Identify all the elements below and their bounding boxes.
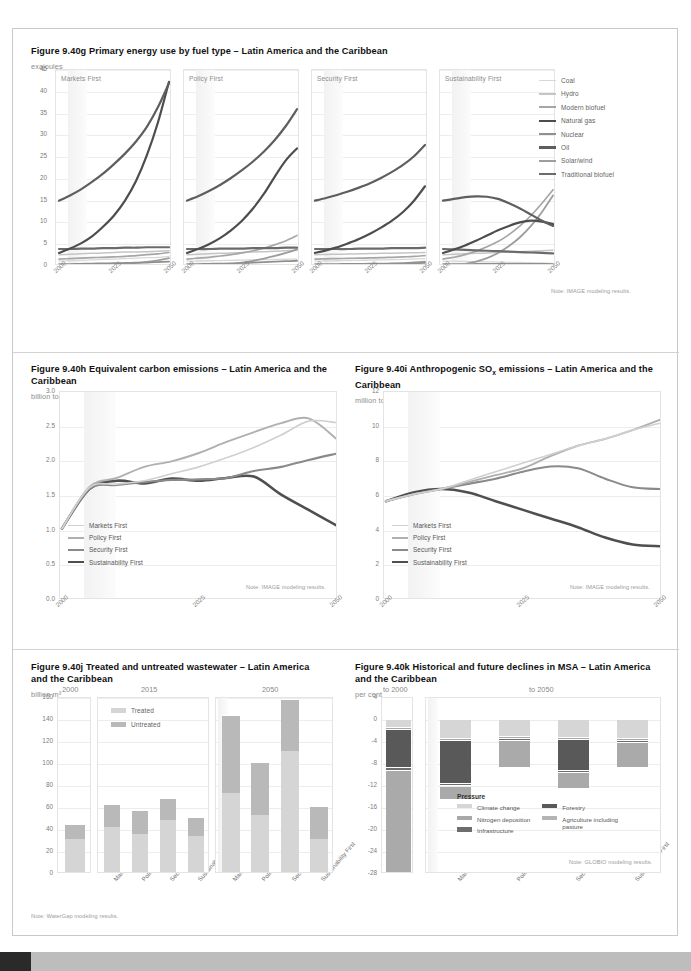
chart-note: Note: IMAGE modeling results. bbox=[570, 584, 650, 590]
pressure-legend-grid: Climate changeNitrogen depositionInfrast… bbox=[457, 804, 624, 839]
legend-swatch bbox=[111, 708, 126, 712]
legend-item-sustainability_first: Sustainability First bbox=[68, 559, 143, 566]
y-tick-label: 0.0 bbox=[33, 595, 55, 602]
figure-9-40j-title-line1: Figure 9.40j Treated and untreated waste… bbox=[31, 661, 343, 673]
segment-untreated bbox=[310, 806, 328, 839]
bar-security_first bbox=[558, 698, 589, 872]
legend-swatch bbox=[539, 80, 556, 81]
plot-area: Markets FirstPolicy FirstSecurity FirstS… bbox=[59, 391, 337, 599]
legend-swatch bbox=[392, 525, 408, 527]
gridline bbox=[98, 764, 208, 765]
y-tick-label: -12 bbox=[355, 781, 377, 788]
gridline bbox=[216, 698, 332, 699]
pressure-legend-col-right: ForestryAgriculture including pasture bbox=[542, 804, 624, 839]
legend-label: Security First bbox=[413, 546, 452, 553]
y-tick-label: 3.0 bbox=[33, 387, 55, 394]
bar-group-0 bbox=[381, 697, 413, 873]
figure-9-40k: Figure 9.40k Historical and future decli… bbox=[355, 661, 667, 927]
y-tick-label: 25 bbox=[29, 152, 47, 159]
panel-lines bbox=[440, 70, 555, 265]
bar-group-0 bbox=[57, 697, 91, 873]
y-tick-label: -20 bbox=[355, 825, 377, 832]
gridline bbox=[98, 742, 208, 743]
gridline bbox=[98, 698, 208, 699]
figure-9-40i-title: Figure 9.40i Anthropogenic SOx emissions… bbox=[355, 363, 667, 391]
panel-sustainability_first: Sustainability First bbox=[439, 69, 555, 265]
treated-legend: TreatedUntreated bbox=[111, 707, 160, 735]
legend-swatch bbox=[68, 525, 84, 527]
gridline bbox=[58, 786, 90, 787]
figure-9-40g: Figure 9.40g Primary energy use by fuel … bbox=[31, 45, 661, 355]
legend-swatch bbox=[539, 133, 556, 135]
y-tick-label: 15 bbox=[29, 196, 47, 203]
legend-label: Treated bbox=[131, 707, 154, 714]
y-tick-label: 0 bbox=[31, 869, 53, 876]
figure-9-40j: Figure 9.40j Treated and untreated waste… bbox=[31, 661, 343, 927]
legend-label: Infrastructure bbox=[477, 827, 513, 834]
segment-untreated bbox=[160, 798, 177, 820]
bar-sustainability_first bbox=[188, 817, 205, 872]
legend-swatch bbox=[457, 827, 472, 831]
legend-swatch bbox=[539, 120, 556, 122]
divider-1 bbox=[13, 352, 679, 353]
scenario-legend: Markets FirstPolicy FirstSecurity FirstS… bbox=[392, 522, 467, 571]
bar-policy_first bbox=[251, 762, 269, 872]
legend-item-markets_first: Markets First bbox=[392, 522, 467, 529]
legend-item-infrastructure: Infrastructure bbox=[457, 827, 530, 834]
legend-label: Traditional biofuel bbox=[561, 171, 614, 178]
legend-item-solar_wind: Solar/wind bbox=[539, 157, 614, 164]
y-tick-label: 0 bbox=[357, 595, 379, 602]
figure-9-40i: Figure 9.40i Anthropogenic SOx emissions… bbox=[355, 363, 667, 641]
legend-item-agriculture_including_pasture: Agriculture including pasture bbox=[542, 816, 624, 831]
y-tick-label: 120 bbox=[31, 737, 53, 744]
legend-label: Policy First bbox=[89, 534, 121, 541]
y-tick-label: -24 bbox=[355, 847, 377, 854]
chart-note: Note: GLOBIO modeling results. bbox=[569, 859, 652, 865]
y-tick-label: 0 bbox=[355, 715, 377, 722]
legend-label: Coal bbox=[561, 77, 575, 84]
panel-lines bbox=[56, 70, 171, 265]
segment-untreated bbox=[132, 810, 149, 833]
legend-label: Sustainability First bbox=[89, 559, 143, 566]
legend-swatch bbox=[539, 160, 556, 162]
figure-9-40g-legend: CoalHydroModern biofuelNatural gasNuclea… bbox=[539, 77, 614, 184]
legend-swatch bbox=[539, 146, 556, 148]
panel-lines bbox=[184, 70, 299, 265]
segment-climate_change bbox=[499, 720, 530, 737]
y-tick-label: 80 bbox=[31, 781, 53, 788]
legend-item-policy_first: Policy First bbox=[392, 534, 467, 541]
y-tick-label: 5 bbox=[29, 239, 47, 246]
segment-climate_change bbox=[440, 720, 471, 739]
legend-swatch bbox=[111, 722, 126, 726]
legend-label: Agriculture including pasture bbox=[562, 816, 624, 831]
panel-lines bbox=[312, 70, 427, 265]
legend-swatch bbox=[542, 804, 557, 808]
bar-policy_first bbox=[499, 698, 530, 872]
segment-treated bbox=[188, 836, 205, 872]
y-tick-label: -8 bbox=[355, 759, 377, 766]
panel-policy_first: Policy First bbox=[183, 69, 299, 265]
bar-security_first bbox=[160, 798, 177, 872]
legend-item-security_first: Security First bbox=[392, 546, 467, 553]
figure-9-40g-note: Note: IMAGE modeling results. bbox=[551, 288, 631, 294]
segment-untreated bbox=[104, 804, 121, 827]
bar-to_2000 bbox=[386, 698, 411, 872]
legend-item-sustainability_first: Sustainability First bbox=[392, 559, 467, 566]
figure-9-40h: Figure 9.40h Equivalent carbon emissions… bbox=[31, 363, 343, 641]
y-tick-label: 40 bbox=[31, 825, 53, 832]
y-tick-label: 100 bbox=[31, 759, 53, 766]
group-label-1: 2015 bbox=[141, 685, 157, 694]
y-tick-label: 140 bbox=[31, 715, 53, 722]
legend-item-natural_gas: Natural gas bbox=[539, 117, 614, 124]
y-tick-label: 4 bbox=[357, 526, 379, 533]
y-tick-label: 60 bbox=[31, 803, 53, 810]
segment-climate_change bbox=[386, 720, 411, 728]
y-tick-label: 0.5 bbox=[33, 560, 55, 567]
segment-treated bbox=[160, 820, 177, 872]
y-tick-label: 2.5 bbox=[33, 422, 55, 429]
y-tick-label: 12 bbox=[357, 387, 379, 394]
figure-9-40j-note: Note: WaterGap modeling results. bbox=[31, 913, 118, 919]
gridline bbox=[58, 742, 90, 743]
legend-label: Nitrogen deposition bbox=[477, 816, 530, 823]
panel-title: Sustainability First bbox=[445, 75, 502, 82]
